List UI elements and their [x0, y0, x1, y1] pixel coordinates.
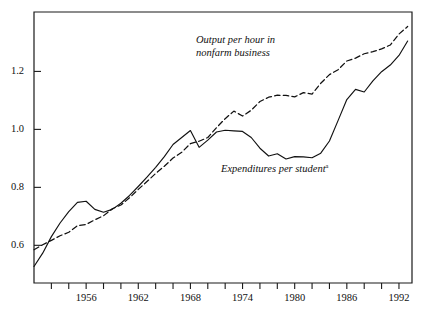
series-label-expenditures-per-student: Expenditures per studenta: [221, 163, 328, 176]
x-tick-label: 1992: [374, 293, 424, 304]
y-tick-label: 0.6: [0, 240, 24, 251]
x-tick-label: 1968: [165, 293, 215, 304]
x-tick-label: 1986: [322, 293, 372, 304]
series-line-expenditures-per-student: [34, 41, 408, 267]
series-line-output-per-hour: [34, 26, 408, 249]
x-tick-label: 1980: [270, 293, 320, 304]
x-tick-label: 1974: [218, 293, 268, 304]
x-tick-label: 1962: [113, 293, 163, 304]
chart-container: 0.60.81.01.2 195619621968197419801986199…: [0, 0, 430, 319]
series-label-output-per-hour: Output per hour in nonfarm business: [196, 34, 275, 60]
footnote-marker: a: [326, 162, 329, 169]
x-axis-ticks: [51, 283, 399, 289]
y-axis-ticks: [34, 71, 41, 245]
x-tick-label: 1956: [61, 293, 111, 304]
y-tick-label: 1.0: [0, 124, 24, 135]
data-series-group: [34, 26, 408, 266]
y-tick-label: 1.2: [0, 66, 24, 77]
y-tick-label: 0.8: [0, 182, 24, 193]
